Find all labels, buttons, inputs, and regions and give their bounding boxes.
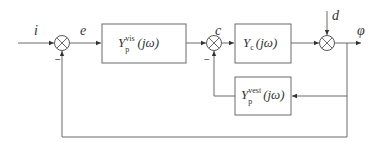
block-controlled-element: Yc(jω): [235, 24, 291, 63]
disturbance-label: d: [332, 8, 340, 23]
error-label: e: [80, 23, 86, 38]
output-label: φ: [357, 23, 365, 38]
vestibular-feedback-line: [214, 51, 235, 96]
block-diagram: i − e Ypvis(jω) − c Yc(jω) d: [0, 0, 381, 143]
block-vestibular-pilot: Ypvest(jω): [235, 77, 291, 115]
summing-junction-1: [55, 36, 70, 51]
minus-sign-1: −: [55, 54, 61, 65]
command-label: c: [215, 23, 222, 38]
summing-junction-3: [320, 36, 335, 51]
input-label: i: [34, 23, 38, 38]
block-controlled-label: Yc(jω): [243, 35, 277, 52]
minus-sign-2: −: [204, 54, 210, 65]
block-visual-pilot: Ypvis(jω): [102, 24, 186, 63]
